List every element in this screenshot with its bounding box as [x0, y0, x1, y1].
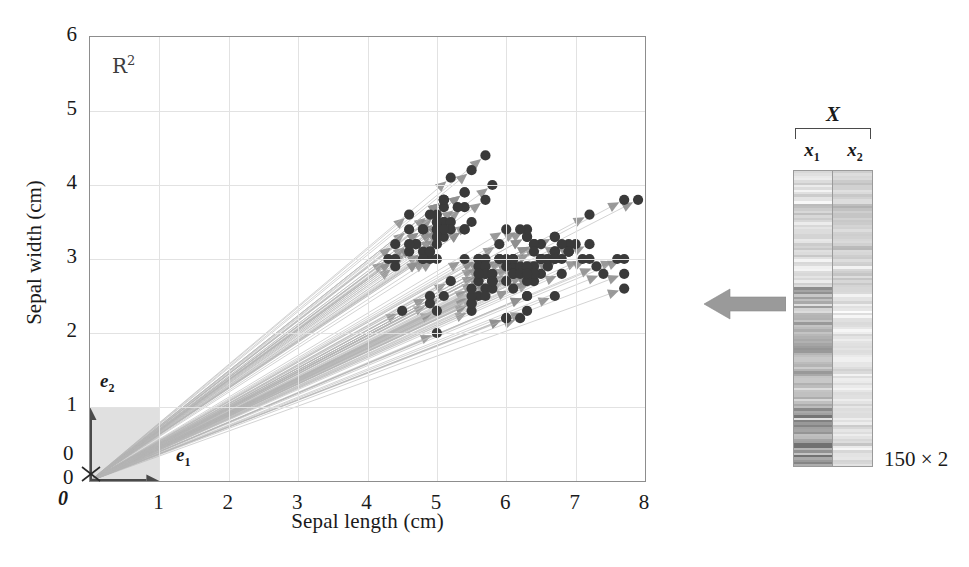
data-point: [494, 239, 504, 249]
data-point: [522, 291, 532, 301]
data-point: [508, 284, 518, 294]
vector-ray: [90, 262, 500, 481]
data-point: [466, 217, 476, 227]
transfer-arrow-icon: [704, 286, 786, 322]
data-point: [404, 224, 414, 234]
vector-arrowhead: [607, 289, 619, 298]
y-axis-tick-label: 5: [43, 96, 77, 121]
matrix-title: X: [793, 102, 873, 127]
gridline-horizontal: [90, 407, 645, 408]
origin-cross-icon: [80, 463, 102, 485]
data-point: [557, 269, 567, 279]
data-point: [550, 291, 560, 301]
x-axis-tick-label: 8: [624, 490, 664, 515]
x-axis-tick-label: 3: [277, 490, 317, 515]
data-point: [598, 269, 608, 279]
x-axis-tick-label: 4: [347, 490, 387, 515]
vector-ray: [90, 321, 514, 481]
x-axis-tick-label: 6: [485, 490, 525, 515]
data-point: [404, 210, 414, 220]
vector-ray: [90, 240, 521, 481]
data-point: [515, 224, 525, 234]
matrix-bracket: [795, 128, 871, 139]
data-point: [390, 239, 400, 249]
matrix-column-header-x1: x1: [792, 139, 832, 165]
vector-arrowhead: [607, 275, 619, 284]
space-annotation: R2: [112, 53, 135, 78]
vector-arrowhead: [469, 203, 481, 213]
gridline-horizontal: [90, 333, 645, 334]
space-symbol: R: [112, 54, 127, 78]
vector-ray: [90, 262, 618, 481]
vector-ray: [90, 233, 500, 481]
matrix-column-header-x2: x2: [835, 139, 875, 165]
origin-y-zero-label: 0: [63, 441, 74, 466]
data-point: [397, 306, 407, 316]
data-point: [584, 239, 594, 249]
matrix-dimensions-label: 150 × 2: [884, 447, 948, 472]
data-point: [466, 165, 476, 175]
vector-ray: [90, 263, 424, 481]
basis-vector-e2-label: e2: [100, 370, 114, 396]
data-point: [480, 195, 490, 205]
vector-ray: [90, 241, 431, 481]
data-point: [550, 232, 560, 242]
data-point: [473, 269, 483, 279]
data-point: [487, 276, 497, 286]
data-point: [404, 239, 414, 249]
data-point: [460, 187, 470, 197]
data-point: [480, 150, 490, 160]
basis-vector-e1-label: e1: [176, 444, 190, 470]
y-axis-tick-label: 6: [43, 22, 77, 47]
data-point: [439, 291, 449, 301]
vector-ray: [90, 255, 528, 481]
data-point: [619, 284, 629, 294]
x-axis-tick-label: 7: [555, 490, 595, 515]
x-axis-tick-label: 5: [416, 490, 456, 515]
origin-vector-label: 0: [58, 487, 68, 510]
data-point: [522, 269, 532, 279]
vector-ray: [90, 263, 459, 481]
data-point: [425, 291, 435, 301]
data-matrix: [793, 170, 873, 467]
data-point: [453, 202, 463, 212]
data-point: [446, 276, 456, 286]
vector-ray: [90, 263, 431, 481]
x-axis-tick-label: 2: [208, 490, 248, 515]
gridline-horizontal: [90, 185, 645, 186]
vector-arrowhead: [573, 217, 585, 227]
vector-ray: [90, 233, 514, 481]
data-point: [522, 306, 532, 316]
vector-rays: [90, 159, 633, 481]
x-axis-tick-label: 1: [138, 490, 178, 515]
iris-vector-figure: R2 e1 e2 0 0 0 Sepal length (cm) Sepal w…: [0, 0, 969, 567]
space-exponent: 2: [127, 53, 135, 68]
data-point: [446, 173, 456, 183]
data-point: [633, 195, 643, 205]
vector-arrowhead: [456, 174, 468, 185]
data-point: [480, 291, 490, 301]
data-point: [584, 210, 594, 220]
matrix-column-x1: [794, 171, 833, 466]
data-point: [418, 224, 428, 234]
data-point: [619, 269, 629, 279]
matrix-column-x2: [833, 171, 872, 466]
matrix-heatmap: [793, 170, 873, 467]
gridline-horizontal: [90, 111, 645, 112]
y-axis-tick-label: 3: [43, 244, 77, 269]
scatter-plot-area: [89, 36, 646, 482]
vector-ray: [90, 233, 521, 481]
y-axis-tick-label: 2: [43, 318, 77, 343]
y-axis-tick-label: 4: [43, 170, 77, 195]
data-point: [439, 195, 449, 205]
gridline-horizontal: [90, 259, 645, 260]
vector-ray: [90, 291, 618, 481]
vector-ray: [90, 276, 618, 481]
data-point: [619, 195, 629, 205]
vector-ray: [90, 276, 597, 481]
y-axis-tick-label: 1: [43, 392, 77, 417]
